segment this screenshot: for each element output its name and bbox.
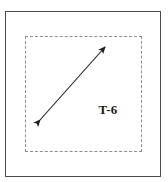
region-label: T-6 bbox=[88, 102, 128, 118]
figure-canvas: T-6 bbox=[0, 0, 168, 182]
dashed-region bbox=[25, 36, 142, 152]
